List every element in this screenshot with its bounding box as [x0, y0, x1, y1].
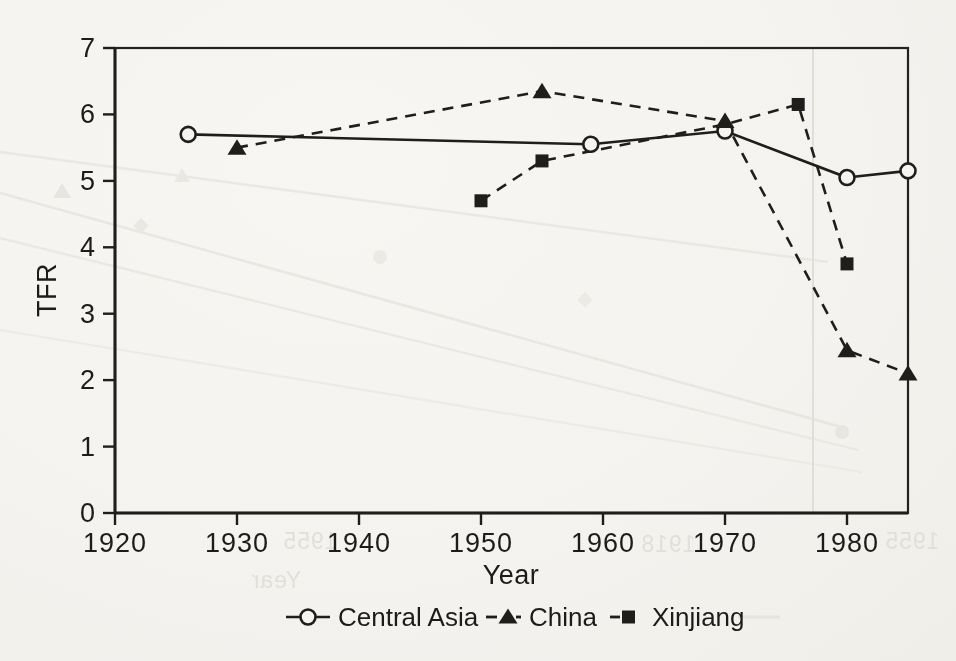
x-tick-label: 1950 — [449, 528, 513, 558]
y-tick-label: 6 — [80, 99, 96, 129]
scanned-figure: 1955 1918 1955 Year 7 6 5 4 3 — [0, 0, 956, 661]
filled-triangle-marker-china — [716, 113, 735, 129]
ghost-line — [0, 193, 845, 428]
filled-triangle-marker-china — [838, 342, 857, 358]
y-tick-label: 4 — [80, 232, 96, 262]
filled-square-marker-xinjiang — [841, 257, 854, 270]
open-circle-marker-central-asia — [583, 137, 598, 152]
filled-triangle-icon — [499, 609, 518, 624]
filled-square-marker-xinjiang — [536, 154, 549, 167]
legend-item-xinjiang: Xinjiang — [610, 602, 745, 632]
y-tick-label: 7 — [80, 33, 96, 63]
ghost-line — [0, 152, 828, 262]
open-circle-icon — [301, 610, 316, 625]
y-tick-labels: 7 6 5 4 3 2 1 0 — [80, 33, 96, 528]
y-tick-label: 2 — [80, 365, 96, 395]
legend-label-xinjiang: Xinjiang — [652, 602, 745, 632]
x-tick-label: 1960 — [571, 528, 635, 558]
ghost-marker — [835, 425, 849, 439]
y-tick-marks — [103, 48, 115, 513]
y-tick-label: 1 — [80, 432, 96, 462]
plot-border — [115, 48, 908, 513]
y-tick-label: 5 — [80, 166, 96, 196]
open-circle-marker-central-asia — [840, 170, 855, 185]
x-tick-label: 1940 — [327, 528, 391, 558]
x-tick-label: 1920 — [83, 528, 147, 558]
plot-frame — [115, 48, 908, 513]
series-layer — [181, 83, 918, 381]
filled-triangle-marker-china — [533, 83, 552, 99]
open-circle-marker-central-asia — [901, 163, 916, 178]
ghost-marker — [577, 292, 593, 308]
ghost-marker — [53, 183, 71, 198]
x-axis-title: Year — [483, 560, 540, 590]
legend-label-china: China — [529, 602, 597, 632]
ghost-text: 1918 — [640, 531, 695, 557]
tfr-chart: 1955 1918 1955 Year 7 6 5 4 3 — [0, 0, 956, 661]
open-circle-marker-central-asia — [181, 127, 196, 142]
x-tick-labels: 1920 1930 1940 1950 1960 1970 1980 — [83, 528, 879, 558]
x-tick-label: 1930 — [205, 528, 269, 558]
ghost-text: Year — [251, 567, 301, 593]
x-tick-label: 1980 — [815, 528, 879, 558]
x-tick-label: 1970 — [693, 528, 757, 558]
ghost-marker — [373, 250, 387, 264]
y-axis-title: TFR — [32, 263, 62, 317]
y-tick-label: 3 — [80, 299, 96, 329]
ghost-line — [0, 238, 858, 450]
legend-label-central-asia: Central Asia — [338, 602, 479, 632]
legend: Central Asia China Xinjiang — [286, 602, 745, 632]
x-tick-marks — [115, 513, 847, 525]
legend-item-central-asia: Central Asia — [286, 602, 479, 632]
filled-square-marker-xinjiang — [792, 98, 805, 111]
filled-square-icon — [622, 611, 635, 624]
y-tick-label: 0 — [80, 498, 96, 528]
legend-item-china: China — [486, 602, 597, 632]
ghost-line — [0, 330, 862, 472]
filled-square-marker-xinjiang — [475, 194, 488, 207]
ghost-text: 1955 — [884, 528, 939, 554]
filled-triangle-marker-china — [899, 365, 918, 381]
